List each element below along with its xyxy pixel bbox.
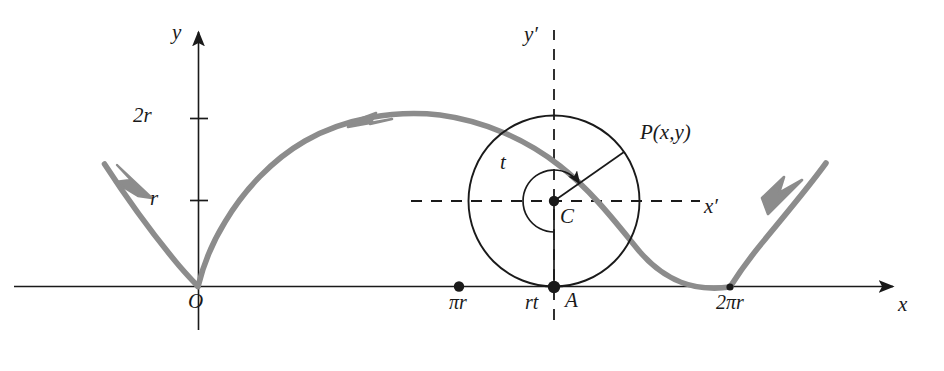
point-center-c bbox=[549, 196, 559, 206]
origin-label: O bbox=[188, 291, 203, 312]
cycloid-figure: y 2r r O x y′ x′ t C P(x,y) πr rt A 2πr bbox=[0, 0, 944, 371]
y-tick-label-2r: 2r bbox=[133, 105, 152, 126]
x-prime-axis-label: x′ bbox=[704, 196, 718, 217]
point-markers bbox=[454, 196, 734, 293]
arc-length-label-rt: rt bbox=[525, 292, 538, 312]
y-axis-label: y bbox=[172, 22, 181, 43]
x-mark-label-pi-r: πr bbox=[449, 292, 467, 312]
curve-direction-arrow-right bbox=[762, 177, 802, 214]
angle-label-t: t bbox=[500, 152, 506, 173]
x-mark-label-two-pi-r: 2πr bbox=[716, 292, 744, 312]
figure-canvas bbox=[0, 0, 944, 371]
contact-point-label-a: A bbox=[565, 290, 578, 311]
x-axis-label: x bbox=[898, 294, 907, 315]
point-contact-a bbox=[548, 281, 560, 293]
point-two-pi-r bbox=[726, 283, 733, 290]
center-label-c: C bbox=[560, 206, 574, 227]
point-label-p: P(x,y) bbox=[640, 122, 691, 143]
y-prime-axis-label: y′ bbox=[524, 24, 538, 45]
y-tick-label-r: r bbox=[150, 188, 158, 209]
curve-direction-arrow-left bbox=[115, 165, 152, 198]
